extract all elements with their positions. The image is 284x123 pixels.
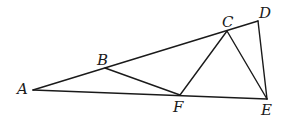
- point-label-a: A: [15, 80, 28, 98]
- point-label-e: E: [260, 101, 272, 119]
- segment-AD: [33, 21, 258, 90]
- point-label-f: F: [172, 98, 184, 116]
- segment-FC: [180, 31, 227, 95]
- geometry-diagram: A B C D E F: [0, 0, 284, 123]
- segments: [33, 21, 267, 99]
- point-labels: A B C D E F: [15, 4, 272, 119]
- point-label-d: D: [258, 4, 271, 22]
- point-label-c: C: [222, 13, 234, 31]
- segment-BF: [105, 68, 180, 95]
- point-label-b: B: [96, 51, 108, 69]
- segment-AE: [33, 90, 267, 99]
